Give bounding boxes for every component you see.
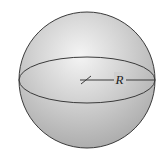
sphere-svg: R [0,0,166,157]
radius-label: R [115,72,124,87]
sphere-diagram: R [0,0,166,157]
